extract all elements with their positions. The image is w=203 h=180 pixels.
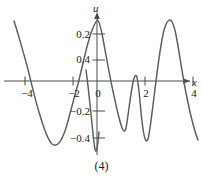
x-tick-label--2: −2 (64, 88, 84, 99)
y-tick-label-0.4: 0.4 (56, 54, 90, 65)
figure-container: u x 0.2 0.4 −0.2 −0.4 −4 −2 0 2 4 (4) (0, 0, 203, 180)
x-tick-label-0: 0 (88, 88, 108, 99)
curve-u-of-x (14, 20, 198, 145)
figure-caption: (4) (0, 160, 203, 173)
x-tick-label-2: 2 (136, 88, 156, 99)
y-tick-label--0.2: −0.2 (50, 106, 90, 117)
x-tick-label--4: −4 (17, 88, 37, 99)
x-tick-label-4: 4 (184, 88, 203, 99)
y-tick-label--0.4: −0.4 (50, 133, 90, 144)
y-axis-label: u (93, 3, 99, 14)
y-tick-label-0.2: 0.2 (56, 29, 90, 40)
